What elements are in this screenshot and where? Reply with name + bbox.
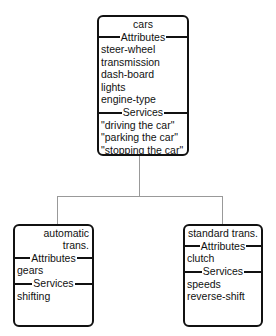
class-name: cars <box>99 17 187 30</box>
connector-horizontal <box>57 196 223 197</box>
connector-right-vertical <box>222 196 223 225</box>
class-box-cars: cars Attributes steer-wheel transmission… <box>97 15 189 156</box>
attributes-label: Attributes <box>30 252 76 264</box>
class-name: standard trans. <box>185 226 261 239</box>
attribute-item: lights <box>99 81 187 94</box>
attribute-item: clutch <box>185 252 261 265</box>
service-item: "stopping the car" <box>99 144 187 157</box>
attributes-separator: Attributes <box>185 239 261 252</box>
attributes-separator: Attributes <box>99 30 187 43</box>
service-item: reverse-shift <box>185 290 261 303</box>
attribute-item: steer-wheel <box>99 43 187 56</box>
class-name: automatic trans. <box>15 226 92 251</box>
attributes-label: Attributes <box>200 240 246 252</box>
attribute-item: transmission <box>99 56 187 69</box>
service-item: "parking the car" <box>99 131 187 144</box>
services-separator: Services <box>15 277 92 290</box>
services-label: Services <box>32 277 74 289</box>
services-separator: Services <box>99 106 187 119</box>
class-box-standard-trans: standard trans. Attributes clutch Servic… <box>183 224 263 327</box>
services-label: Services <box>202 265 244 277</box>
connector-root-vertical <box>139 155 140 197</box>
service-item: shifting <box>15 290 92 303</box>
attribute-item: gears <box>15 264 92 277</box>
services-separator: Services <box>185 265 261 278</box>
class-box-automatic-trans: automatic trans. Attributes gears Servic… <box>13 224 94 327</box>
attribute-item: engine-type <box>99 93 187 106</box>
service-item: "driving the car" <box>99 119 187 132</box>
service-item: speeds <box>185 278 261 291</box>
attributes-separator: Attributes <box>15 251 92 264</box>
services-label: Services <box>122 106 164 118</box>
connector-left-vertical <box>57 196 58 225</box>
attribute-item: dash-board <box>99 68 187 81</box>
attributes-label: Attributes <box>120 31 166 43</box>
